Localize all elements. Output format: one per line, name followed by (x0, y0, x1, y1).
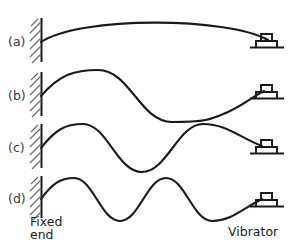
vibrator-support-b (250, 85, 284, 99)
wave-curve-d (41, 178, 262, 221)
vibrator-label: Vibrator (228, 224, 279, 239)
standing-waves-figure: (a) (b) (0, 0, 292, 247)
vibrator-support-d (250, 193, 284, 207)
row-label-a: (a) (8, 34, 25, 49)
row-label-b: (b) (8, 88, 26, 103)
vibrator-support-a (250, 34, 284, 48)
row-label-d: (d) (8, 191, 26, 206)
fixed-wall-a (30, 18, 42, 63)
fixed-wall-b (30, 72, 42, 117)
wave-row-a: (a) (8, 18, 284, 63)
figure-canvas: (a) (b) (0, 0, 292, 247)
wall-hatching-a (30, 19, 41, 63)
fixed-wall-c (30, 124, 42, 169)
wave-curve-b (41, 70, 264, 122)
wave-curve-c (41, 124, 262, 172)
row-label-c: (c) (8, 140, 25, 155)
fixed-end-label-line2: end (30, 227, 54, 242)
wall-hatching-c (30, 125, 41, 169)
wave-row-c: (c) (8, 124, 284, 172)
wall-hatching-b (30, 73, 41, 117)
wave-curve-a (41, 23, 268, 42)
wave-row-b: (b) (8, 70, 284, 122)
